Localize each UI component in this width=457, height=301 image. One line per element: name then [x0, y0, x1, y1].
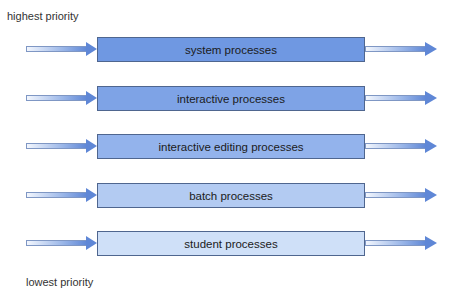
queue-row-interactive-editing: interactive editing processes: [0, 134, 457, 159]
output-arrow-icon: [365, 192, 427, 198]
input-arrow-icon: [26, 240, 88, 246]
output-arrowhead-icon: [425, 236, 437, 250]
queue-box: student processes: [97, 231, 365, 256]
queue-row-batch: batch processes: [0, 183, 457, 208]
queue-label: interactive processes: [177, 93, 285, 105]
lowest-priority-label: lowest priority: [26, 276, 93, 288]
queue-box: batch processes: [97, 183, 365, 208]
output-arrowhead-icon: [425, 188, 437, 202]
queue-label: student processes: [184, 238, 277, 250]
queue-row-system: system processes: [0, 37, 457, 62]
input-arrowhead-icon: [86, 42, 97, 56]
queue-label: system processes: [185, 44, 277, 56]
input-arrowhead-icon: [86, 188, 97, 202]
output-arrow-icon: [365, 46, 427, 52]
output-arrowhead-icon: [425, 42, 437, 56]
queue-box: system processes: [97, 37, 365, 62]
queue-label: interactive editing processes: [158, 141, 303, 153]
queue-row-interactive: interactive processes: [0, 86, 457, 111]
input-arrowhead-icon: [86, 139, 97, 153]
highest-priority-label: highest priority: [7, 10, 79, 22]
queue-label: batch processes: [189, 190, 273, 202]
output-arrow-icon: [365, 95, 427, 101]
output-arrowhead-icon: [425, 91, 437, 105]
queue-row-student: student processes: [0, 231, 457, 256]
input-arrow-icon: [26, 46, 88, 52]
queue-box: interactive editing processes: [97, 134, 365, 159]
input-arrowhead-icon: [86, 91, 97, 105]
input-arrow-icon: [26, 143, 88, 149]
input-arrowhead-icon: [86, 236, 97, 250]
queue-box: interactive processes: [97, 86, 365, 111]
output-arrow-icon: [365, 240, 427, 246]
output-arrowhead-icon: [425, 139, 437, 153]
output-arrow-icon: [365, 143, 427, 149]
input-arrow-icon: [26, 192, 88, 198]
input-arrow-icon: [26, 95, 88, 101]
